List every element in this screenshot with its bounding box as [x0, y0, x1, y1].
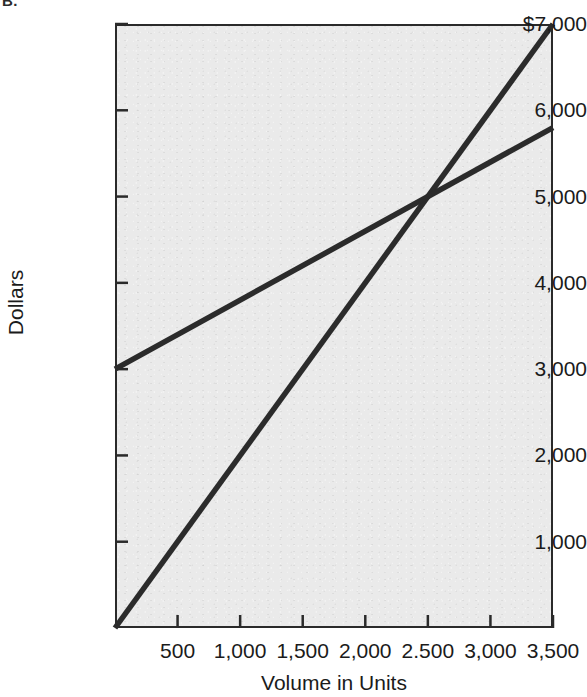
x-tick-label: 1,000 — [214, 640, 267, 661]
y-tick-label: 3,000 — [483, 358, 587, 379]
x-tick-label: 3,500 — [527, 640, 580, 661]
y-tick-label: 1,000 — [483, 531, 587, 552]
y-tick-label: 2,000 — [483, 444, 587, 465]
x-tick-label: 1,500 — [276, 640, 329, 661]
series-line-total-cost — [115, 128, 553, 370]
x-tick-label: 2.500 — [402, 640, 455, 661]
x-axis-title: Volume in Units — [115, 672, 553, 693]
x-tick-label: 500 — [160, 640, 195, 661]
line-chart: 1,0002,0003,0004,0005,0006,000$7,000 500… — [0, 0, 587, 697]
y-tick-label: 5,000 — [483, 186, 587, 207]
x-tick-label: 2,000 — [339, 640, 392, 661]
y-tick-label: 4,000 — [483, 272, 587, 293]
y-axis-title: Dollars — [5, 263, 26, 343]
x-tick-label: 3,000 — [464, 640, 517, 661]
y-tick-label: 6,000 — [483, 99, 587, 120]
y-tick-label: $7,000 — [483, 13, 587, 34]
